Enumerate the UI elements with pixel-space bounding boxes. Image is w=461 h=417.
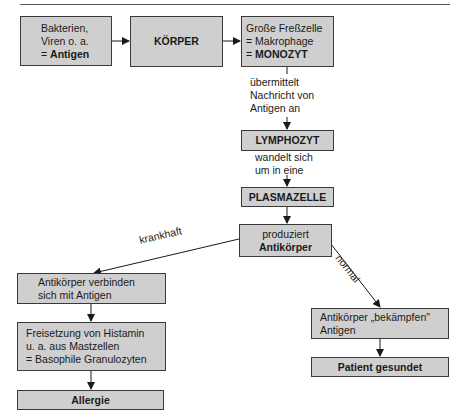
arrow-krankhaft: [94, 239, 239, 273]
antikoerper-line1: produziert: [262, 228, 309, 241]
gesundet-label: Patient gesundet: [338, 361, 423, 374]
monozyt-line1: Große Freßzelle: [246, 22, 327, 35]
node-antigen: Bakterien, Viren o. a. = Antigen: [20, 16, 112, 66]
wandelt-line1: wandelt sich: [255, 151, 313, 164]
bekaempfen-line1: Antikörper „bekämpfen": [320, 311, 442, 324]
wandelt-line2: um in eine: [255, 164, 313, 177]
monozyt-line3-bold: MONOZYT: [255, 48, 308, 60]
bekaempfen-line2: Antigen: [320, 324, 442, 337]
node-plasmazelle: PLASMAZELLE: [241, 187, 334, 207]
uebermittelt-line2: Nachricht von: [250, 89, 314, 102]
verbinden-line2: sich mit Antigen: [38, 289, 159, 302]
node-verbinden: Antikörper verbinden sich mit Antigen: [17, 273, 166, 304]
node-monozyt: Große Freßzelle = Makrophage = MONOZYT: [241, 16, 334, 67]
uebermittelt-line3: Antigen an: [250, 102, 314, 115]
antigen-line2: Viren o. a.: [41, 35, 105, 48]
node-koerper: KÖRPER: [130, 16, 223, 67]
antikoerper-line2: Antikörper: [259, 241, 312, 254]
uebermittelt-line1: übermittelt: [250, 76, 314, 89]
node-allergie: Allergie: [17, 390, 164, 410]
histamin-line2: u. a. aus Mastzellen: [26, 340, 159, 353]
antigen-line3-bold: Antigen: [50, 48, 89, 60]
monozyt-line3-prefix: =: [246, 48, 255, 60]
koerper-label: KÖRPER: [154, 35, 199, 48]
node-antikoerper: produziert Antikörper: [239, 224, 332, 257]
edge-label-uebermittelt: übermittelt Nachricht von Antigen an: [250, 76, 314, 115]
node-gesundet: Patient gesundet: [311, 357, 449, 377]
antigen-line1: Bakterien,: [41, 22, 105, 35]
node-lymphozyt: LYMPHOZYT: [241, 130, 334, 151]
monozyt-line3: = MONOZYT: [246, 48, 327, 61]
antigen-line3: = Antigen: [41, 48, 105, 61]
edge-label-wandelt: wandelt sich um in eine: [255, 151, 313, 177]
node-bekaempfen: Antikörper „bekämpfen" Antigen: [311, 308, 449, 339]
allergie-label: Allergie: [71, 394, 110, 407]
plasmazelle-label: PLASMAZELLE: [249, 191, 327, 204]
node-histamin: Freisetzung von Histamin u. a. aus Mastz…: [17, 322, 166, 371]
histamin-line3: = Basophile Granulozyten: [26, 353, 159, 366]
antigen-line3-prefix: =: [41, 48, 50, 60]
histamin-line1: Freisetzung von Histamin: [26, 327, 159, 340]
monozyt-line2: = Makrophage: [246, 35, 327, 48]
lymphozyt-label: LYMPHOZYT: [256, 134, 320, 147]
verbinden-line1: Antikörper verbinden: [38, 276, 159, 289]
